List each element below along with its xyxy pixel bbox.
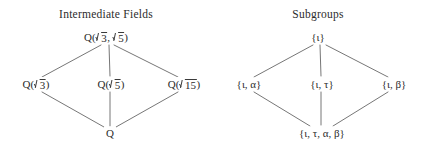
field-node-top-radicand-2: 5 — [118, 32, 125, 44]
sqrt-icon: 3 — [96, 31, 107, 43]
sqrt-icon: 5 — [113, 31, 124, 43]
subgroup-node-top: {ι} — [309, 31, 327, 44]
subgroup-node-middle: {ι, τ} — [308, 78, 335, 91]
edge-left-bottom — [254, 92, 310, 126]
field-node-left-prefix: Q( — [23, 78, 35, 90]
field-node-top-radicand-1: 3 — [101, 32, 108, 44]
field-node-middle-radicand: 5 — [114, 79, 121, 91]
field-node-right: Q(15) — [166, 77, 202, 91]
field-node-top-prefix: Q( — [84, 31, 96, 43]
edge-left-bottom — [42, 92, 104, 127]
field-node-top: Q(3, 5) — [82, 30, 130, 44]
field-node-left-suffix: ) — [46, 78, 50, 90]
subgroup-node-left: {ι, α} — [235, 78, 264, 91]
sqrt-icon: 5 — [110, 78, 121, 90]
field-node-right-suffix: ) — [196, 78, 200, 90]
galois-correspondence-figure: Intermediate Fields Q(3, 5) Q(3) Q(5) — [0, 0, 424, 153]
subgroup-node-right: {ι, β} — [380, 78, 409, 91]
field-node-bottom: Q — [104, 127, 116, 140]
field-node-left: Q(3) — [21, 77, 52, 91]
sqrt-icon: 3 — [35, 78, 46, 90]
edge-top-middle — [320, 45, 321, 76]
field-node-top-suffix: ) — [124, 31, 128, 43]
edge-top-left — [42, 45, 101, 77]
sqrt-icon: 15 — [180, 78, 197, 90]
edge-right-bottom — [333, 92, 388, 126]
field-node-middle-suffix: ) — [121, 78, 125, 90]
field-node-right-prefix: Q( — [168, 78, 180, 90]
edge-top-right — [114, 45, 178, 77]
field-node-right-radicand: 15 — [184, 79, 196, 91]
field-node-left-radicand: 3 — [39, 79, 46, 91]
edge-top-middle — [109, 45, 110, 76]
edge-right-bottom — [116, 92, 178, 127]
field-node-middle-prefix: Q( — [98, 78, 110, 90]
field-node-middle: Q(5) — [96, 77, 127, 91]
subgroup-node-bottom: {ι, τ, α, β} — [297, 127, 347, 140]
intermediate-fields-lattice: Intermediate Fields Q(3, 5) Q(3) Q(5) — [0, 0, 212, 153]
edge-top-left — [254, 45, 313, 77]
subgroups-lattice: Subgroups {ι} {ι, α} {ι, τ} {ι, β} {ι, τ… — [212, 0, 424, 153]
edge-top-right — [326, 45, 388, 77]
